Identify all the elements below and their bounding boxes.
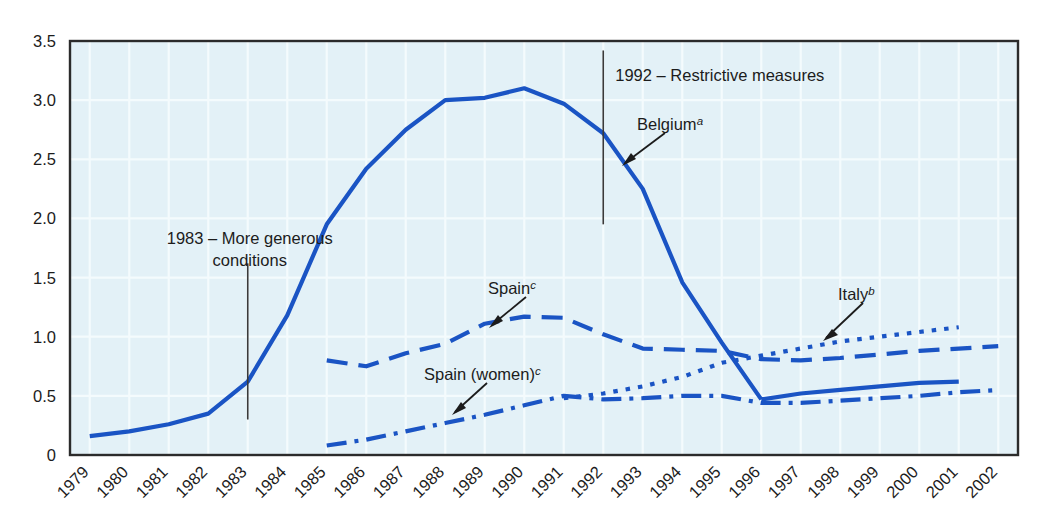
y-axis-tick-label: 0: [47, 446, 56, 464]
label-spain: Spainc: [488, 279, 536, 297]
plot-background: [70, 41, 1018, 455]
x-axis-tick-label: 1981: [132, 462, 171, 501]
y-axis-tick-label: 2.0: [33, 209, 56, 227]
annotation-1983-line: 1983 – More generous: [167, 229, 333, 247]
y-axis-tick-label: 1.5: [33, 269, 56, 287]
y-axis-ticks: 00.51.01.52.02.53.03.5: [33, 32, 56, 464]
x-axis-tick-label: 1994: [646, 462, 685, 501]
chart-container: 00.51.01.52.02.53.03.5 19791980198119821…: [0, 0, 1048, 521]
x-axis-tick-label: 1990: [488, 462, 527, 501]
x-axis-tick-label: 1982: [172, 462, 211, 501]
x-axis-tick-label: 2000: [883, 462, 922, 501]
x-axis-tick-label: 1997: [764, 462, 803, 501]
x-axis-tick-label: 2002: [962, 462, 1001, 501]
x-axis-ticks: 1979198019811982198319841985198619871988…: [53, 462, 1000, 501]
x-axis-tick-label: 1989: [448, 462, 487, 501]
x-axis-tick-label: 1985: [290, 462, 329, 501]
label-spain-women: Spain (women)c: [424, 365, 541, 383]
x-axis-tick-label: 1995: [685, 462, 724, 501]
x-axis-tick-label: 1988: [409, 462, 448, 501]
x-axis-tick-label: 1987: [369, 462, 408, 501]
y-axis-tick-label: 3.5: [33, 32, 56, 50]
x-axis-tick-label: 1998: [804, 462, 843, 501]
y-axis-tick-label: 0.5: [33, 387, 56, 405]
line-chart: 00.51.01.52.02.53.03.5 19791980198119821…: [0, 0, 1048, 521]
annotation-1983-line: conditions: [213, 251, 287, 269]
x-axis-tick-label: 1992: [567, 462, 606, 501]
x-axis-tick-label: 1980: [93, 462, 132, 501]
x-axis-tick-label: 1984: [251, 462, 290, 501]
x-axis-tick-label: 1996: [725, 462, 764, 501]
x-axis-tick-label: 1999: [843, 462, 882, 501]
y-axis-tick-label: 1.0: [33, 328, 56, 346]
y-axis-tick-label: 3.0: [33, 91, 56, 109]
y-axis-tick-label: 2.5: [33, 150, 56, 168]
x-axis-tick-label: 1979: [53, 462, 92, 501]
x-axis-tick-label: 1986: [330, 462, 369, 501]
x-axis-tick-label: 1983: [211, 462, 250, 501]
x-axis-tick-label: 1993: [606, 462, 645, 501]
annotation-1992-line: 1992 – Restrictive measures: [615, 66, 824, 84]
x-axis-tick-label: 1991: [527, 462, 566, 501]
label-belgium: Belgiuma: [637, 115, 703, 133]
x-axis-tick-label: 2001: [922, 462, 961, 501]
